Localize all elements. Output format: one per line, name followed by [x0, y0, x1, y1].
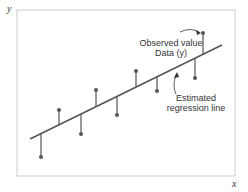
- y-axis-label: y: [7, 3, 11, 14]
- regression-label-line1: Estimated: [160, 93, 232, 103]
- arrow-head-icon: [196, 30, 201, 35]
- regression-label-line2: regression line: [160, 103, 232, 113]
- regression-line-label: Estimated regression line: [160, 93, 232, 113]
- data-point: [94, 88, 98, 92]
- regression-diagram: y x Observed value Data (y) Estimated re…: [0, 0, 248, 192]
- data-point: [193, 76, 197, 80]
- data-point: [57, 108, 61, 112]
- data-point: [134, 69, 138, 73]
- data-point: [39, 155, 43, 159]
- regression-line: [30, 45, 222, 139]
- observed-label-line1: Observed value: [136, 38, 206, 48]
- data-point: [201, 31, 205, 35]
- observed-label-line2: Data (y): [136, 48, 206, 58]
- data-point: [155, 89, 159, 93]
- data-point: [115, 113, 119, 117]
- arrow-head-icon: [174, 72, 179, 78]
- observed-arrow: [180, 30, 199, 33]
- observed-value-label: Observed value Data (y): [136, 38, 206, 58]
- x-axis-label: x: [232, 178, 236, 189]
- data-point: [79, 132, 83, 136]
